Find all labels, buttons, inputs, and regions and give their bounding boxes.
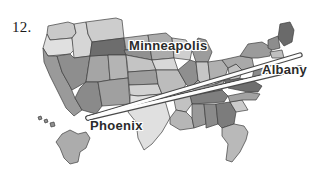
figure-container: 12.: [0, 0, 331, 180]
state-vt-nh: [268, 36, 280, 50]
state-ut: [86, 55, 110, 82]
state-ak: [56, 130, 90, 164]
state-nc: [228, 92, 260, 102]
city-label-phoenix: Phoenix: [90, 118, 143, 133]
state-la: [170, 110, 194, 130]
state-hi-1: [38, 116, 42, 120]
state-ny: [240, 42, 272, 58]
state-hi-3: [50, 122, 55, 127]
state-ia: [152, 58, 178, 70]
state-ma-ct-ri: [270, 50, 284, 58]
state-hi-2: [44, 119, 48, 123]
us-map-svg: [0, 0, 331, 180]
state-wa: [47, 22, 76, 40]
state-ks: [128, 70, 158, 85]
state-al: [204, 104, 218, 128]
state-fl: [222, 124, 248, 162]
city-label-albany: Albany: [262, 62, 307, 77]
city-label-minneapolis: Minneapolis: [129, 38, 207, 53]
state-co: [108, 55, 128, 80]
us-map: [0, 0, 331, 180]
state-me: [278, 22, 294, 46]
state-ms: [192, 104, 206, 128]
state-nm: [98, 78, 130, 106]
